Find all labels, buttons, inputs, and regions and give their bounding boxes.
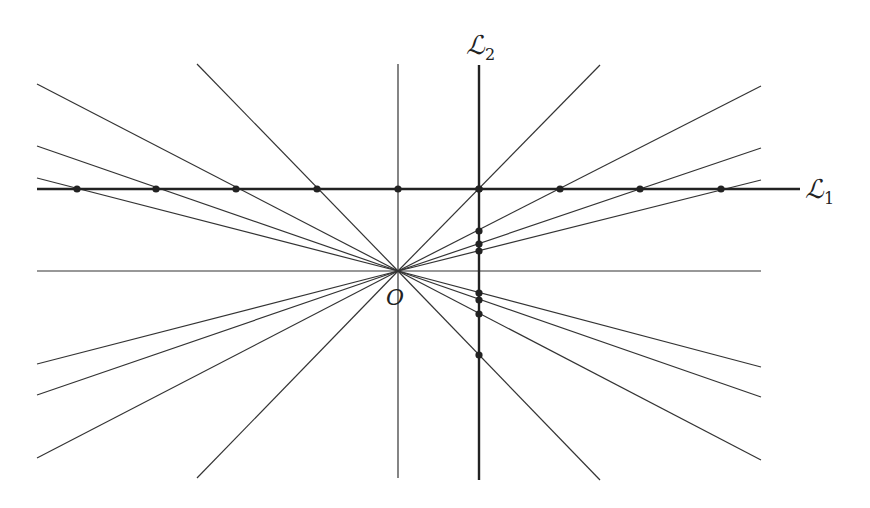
ray-line [398,86,761,271]
L1-point [556,185,563,192]
ray-line [398,180,761,271]
ray-line [197,64,398,271]
L1-point [394,185,401,192]
L2-point [475,351,482,358]
ray-line [37,271,398,364]
ray-line [37,146,398,271]
projective-lines-diagram: ℒ2 ℒ1 O [0,0,870,508]
L2-point [475,227,482,234]
L1-point [636,185,643,192]
ray-line [37,84,398,271]
ray-line [398,65,600,271]
coordinate-axes [37,64,761,478]
ray-line [197,271,398,478]
L2-point [475,240,482,247]
L2-point [475,185,482,192]
L2-point [475,296,482,303]
L1-point [313,185,320,192]
L1-point [232,185,239,192]
ray-line [398,271,600,480]
rays-through-origin [37,64,761,480]
L2-point [475,310,482,317]
ray-line [398,271,761,367]
L2-point [475,289,482,296]
ray-line [37,271,398,395]
L1-point [73,185,80,192]
ray-line [37,178,398,271]
ray-line [398,271,761,397]
L2-point [475,247,482,254]
ray-line [37,271,398,458]
lines-L1-L2 [37,65,800,480]
ray-line [398,148,761,271]
L2-label: ℒ2 [466,30,495,64]
ray-line [398,271,761,460]
L1-point [717,185,724,192]
L1-point [152,185,159,192]
L1-label: ℒ1 [805,174,834,208]
origin-label: O [386,285,404,310]
